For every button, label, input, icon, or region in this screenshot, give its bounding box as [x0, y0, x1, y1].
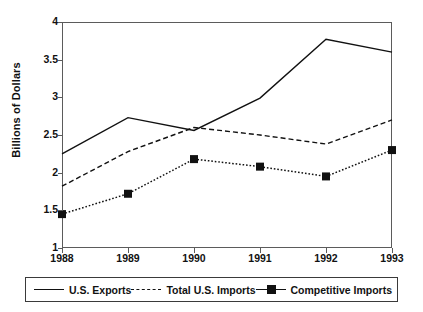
x-tick-mark — [128, 248, 129, 253]
chart-legend: U.S. Exports Total U.S. Imports Competit… — [25, 277, 398, 302]
y-tick-label: 3.5 — [18, 54, 58, 65]
x-tick-label: 1992 — [303, 252, 349, 264]
legend-item-total-us-imports: Total U.S. Imports — [131, 284, 255, 296]
y-axis-title: Billions of Dollars — [10, 50, 22, 170]
y-tick-label: 4 — [18, 16, 58, 27]
series-line-u-s-exports — [62, 39, 392, 154]
y-tick-label: 1 — [18, 242, 58, 253]
plot-series-layer — [62, 22, 392, 248]
y-tick-mark — [58, 173, 63, 174]
y-tick-mark — [58, 60, 63, 61]
x-tick-label: 1993 — [369, 252, 415, 264]
x-tick-label: 1989 — [105, 252, 151, 264]
y-tick-label: 2.5 — [18, 129, 58, 140]
data-point-marker — [256, 163, 264, 171]
legend-label-total-us-imports: Total U.S. Imports — [166, 284, 255, 296]
legend-line-sample-dashed-icon — [131, 284, 161, 295]
legend-line-sample-solid-icon — [34, 284, 64, 295]
x-tick-mark — [260, 248, 261, 253]
data-point-marker — [388, 146, 396, 154]
y-tick-label: 2 — [18, 167, 58, 178]
x-tick-label: 1990 — [171, 252, 217, 264]
y-tick-mark — [58, 97, 63, 98]
legend-item-us-exports: U.S. Exports — [34, 284, 131, 296]
data-point-marker — [322, 172, 330, 180]
y-tick-mark — [58, 210, 63, 211]
y-tick-label: 3 — [18, 91, 58, 102]
x-tick-mark — [194, 248, 195, 253]
x-tick-label: 1991 — [237, 252, 283, 264]
data-point-marker — [124, 190, 132, 198]
x-tick-label: 1988 — [39, 252, 85, 264]
legend-label-us-exports: U.S. Exports — [69, 284, 131, 296]
series-line-total-u-s-imports — [62, 120, 392, 186]
y-tick-mark — [58, 135, 63, 136]
data-point-marker — [190, 155, 198, 163]
line-chart-figure: Billions of Dollars 43.532.521.51 198819… — [0, 0, 423, 312]
legend-line-sample-marker-icon — [256, 284, 286, 295]
x-tick-mark — [392, 248, 393, 253]
legend-item-competitive-imports: Competitive Imports — [256, 284, 393, 296]
y-tick-mark — [58, 22, 63, 23]
legend-label-competitive-imports: Competitive Imports — [291, 284, 393, 296]
y-tick-label: 1.5 — [18, 204, 58, 215]
x-tick-mark — [326, 248, 327, 253]
x-tick-mark — [62, 248, 63, 253]
